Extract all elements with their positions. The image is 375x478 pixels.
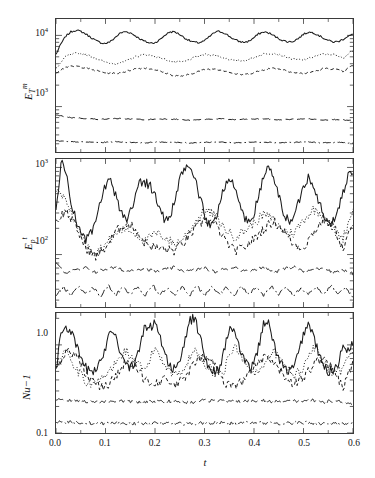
panel-3-plot-area xyxy=(56,313,353,433)
panel-3-ytick-1p0: 1.0 xyxy=(14,328,48,338)
data-curve-solid xyxy=(56,160,353,243)
panel-2-ytick-1e3: 103 xyxy=(14,157,48,169)
panel-3-y-axis-label: Nu−1 xyxy=(20,374,32,400)
data-curve-dotted xyxy=(56,345,353,388)
panel-2-ytick-1e2: 102 xyxy=(14,234,48,246)
data-curve-dash-short xyxy=(56,66,353,77)
data-curve-dash-dot xyxy=(56,141,353,144)
panel-1-plot-area xyxy=(56,19,353,152)
data-curve-dash-long xyxy=(56,263,353,275)
plot-panel-3 xyxy=(55,312,354,434)
plot-panel-2 xyxy=(55,158,354,308)
data-curve-dotted xyxy=(56,189,353,256)
panel-1-ytick-1e4: 104 xyxy=(14,26,48,38)
x-tick-label: 0.3 xyxy=(187,438,223,448)
x-tick-label: 0.6 xyxy=(336,438,372,448)
data-curve-dash-dot xyxy=(56,285,353,298)
panel-1-ytick-1e3: 103 xyxy=(14,86,48,98)
panel-2-plot-area xyxy=(56,159,353,307)
x-tick-label: 0.4 xyxy=(236,438,272,448)
data-curve-dash-long xyxy=(56,399,353,405)
panel-3-y-label-base: Nu−1 xyxy=(20,374,32,400)
x-tick-label: 0.5 xyxy=(286,438,322,448)
data-curve-dotted xyxy=(56,51,353,68)
x-tick-label: 0.1 xyxy=(87,438,123,448)
x-tick-label: 0.0 xyxy=(37,438,73,448)
figure-root: ETm 104 103 Ept 103 102 Nu−1 1.0 0.1 0.0… xyxy=(0,0,375,478)
x-axis-label: t xyxy=(185,457,225,468)
plot-panel-1 xyxy=(55,18,354,153)
x-tick-label: 0.2 xyxy=(137,438,173,448)
data-curve-dash-long xyxy=(56,115,353,121)
data-curve-solid xyxy=(56,30,353,54)
data-curve-dash-dot xyxy=(56,421,353,425)
panel-3-ytick-0p1: 0.1 xyxy=(14,428,48,438)
